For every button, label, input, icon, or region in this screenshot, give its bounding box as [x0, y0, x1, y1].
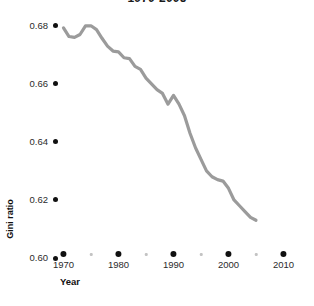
x-axis-tick-marker — [280, 251, 286, 257]
x-axis-minor-tick-marker — [200, 253, 203, 256]
y-axis-title: Gini ratio — [5, 191, 15, 247]
gini-ratio-line-chart: 1970-2005 0.600.620.640.660.68 197019801… — [0, 0, 314, 306]
x-axis-tick-marker — [170, 251, 176, 257]
x-axis-tick-label: 2010 — [273, 260, 294, 270]
x-axis-tick-marker — [60, 251, 66, 257]
x-axis-tick: 2010 — [273, 251, 294, 270]
x-axis-tick: 1970 — [53, 251, 74, 270]
x-axis-minor-tick-marker — [145, 253, 148, 256]
x-axis: 19701980199020002010 — [0, 0, 314, 306]
x-axis-tick: 2000 — [218, 251, 239, 270]
x-axis-tick-label: 2000 — [218, 260, 239, 270]
x-axis-tick-marker — [115, 251, 121, 257]
x-axis-tick: 1990 — [163, 251, 184, 270]
x-axis-tick-marker — [225, 251, 231, 257]
x-axis-minor-tick — [200, 253, 203, 256]
x-axis-minor-tick — [255, 253, 258, 256]
x-axis-minor-tick — [90, 253, 93, 256]
x-axis-tick-label: 1990 — [163, 260, 184, 270]
x-axis-minor-tick-marker — [255, 253, 258, 256]
x-axis-minor-tick-marker — [90, 253, 93, 256]
x-axis-title: Year — [40, 276, 100, 287]
x-axis-tick-label: 1980 — [108, 260, 129, 270]
x-axis-tick-label: 1970 — [53, 260, 74, 270]
x-axis-tick: 1980 — [108, 251, 129, 270]
x-axis-minor-tick — [145, 253, 148, 256]
